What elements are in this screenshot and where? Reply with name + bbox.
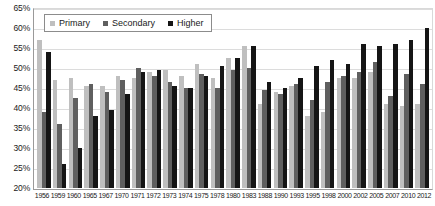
x-tick-label: 1983 — [241, 192, 257, 206]
x-tick-label: 1960 — [66, 192, 82, 206]
bars-layer — [35, 9, 431, 188]
x-tick-label: 1965 — [82, 192, 98, 206]
bar-higher — [78, 148, 83, 188]
bar-group — [225, 9, 241, 188]
bar-higher — [188, 88, 193, 188]
bar-group — [83, 9, 99, 188]
bar-group — [194, 9, 210, 188]
x-tick-label: 1967 — [98, 192, 114, 206]
bar-higher — [330, 60, 335, 188]
x-tick-label: 1971 — [130, 192, 146, 206]
bar-higher — [125, 94, 130, 188]
legend-label: Primary — [59, 18, 90, 28]
bar-higher — [204, 76, 209, 188]
bar-higher — [409, 40, 414, 188]
bar-group — [99, 9, 115, 188]
square-swatch-icon — [103, 21, 108, 26]
y-tick-label: 45% — [14, 84, 30, 93]
bar-group — [351, 9, 367, 188]
y-tick-label: 55% — [14, 44, 30, 53]
bar-higher — [393, 44, 398, 188]
bar-higher — [93, 116, 98, 188]
bar-higher — [267, 82, 272, 188]
x-tick-label: 1993 — [289, 192, 305, 206]
y-tick-label: 35% — [14, 124, 30, 133]
plot-area — [33, 8, 433, 190]
x-tick-label: 1959 — [50, 192, 66, 206]
y-tick-label: 20% — [14, 184, 30, 193]
bar-group — [336, 9, 352, 188]
bar-higher — [109, 110, 114, 188]
legend-entry-secondary[interactable]: Secondary — [103, 18, 155, 28]
legend-entry-higher[interactable]: Higher — [168, 18, 204, 28]
bar-group — [131, 9, 147, 188]
square-swatch-icon — [168, 21, 173, 26]
bar-higher — [314, 66, 319, 188]
bar-higher — [283, 88, 288, 188]
bar-group — [288, 9, 304, 188]
bar-higher — [46, 52, 51, 188]
x-tick-label: 2010 — [400, 192, 416, 206]
x-tick-label: 1970 — [114, 192, 130, 206]
bar-group — [52, 9, 68, 188]
bar-higher — [235, 58, 240, 188]
bar-higher — [251, 46, 256, 188]
bar-group — [304, 9, 320, 188]
x-tick-label: 2000 — [337, 192, 353, 206]
square-swatch-icon — [50, 21, 55, 26]
bar-group — [272, 9, 288, 188]
bar-higher — [172, 86, 177, 188]
bar-higher — [346, 64, 351, 188]
bar-higher — [361, 44, 366, 188]
bar-group — [162, 9, 178, 188]
y-tick-label: 60% — [14, 24, 30, 33]
y-axis: 65%60%55%50%45%40%35%30%25%20% — [0, 0, 33, 190]
bar-group — [414, 9, 430, 188]
legend-label: Higher — [177, 18, 204, 28]
y-tick-label: 40% — [14, 104, 30, 113]
y-tick-label: 50% — [14, 64, 30, 73]
x-tick-label: 1995 — [305, 192, 321, 206]
bar-higher — [298, 78, 303, 188]
y-tick-label: 25% — [14, 164, 30, 173]
legend-entry-primary[interactable]: Primary — [50, 18, 90, 28]
bar-group — [68, 9, 84, 188]
bar-higher — [220, 66, 225, 188]
bar-group — [383, 9, 399, 188]
bar-group — [36, 9, 52, 188]
bar-higher — [157, 70, 162, 188]
x-tick-label: 1980 — [225, 192, 241, 206]
legend-label: Secondary — [112, 18, 155, 28]
x-tick-label: 1975 — [193, 192, 209, 206]
x-tick-label: 2012 — [416, 192, 432, 206]
x-tick-label: 1972 — [145, 192, 161, 206]
bar-group — [367, 9, 383, 188]
bar-group — [399, 9, 415, 188]
bar-group — [320, 9, 336, 188]
bar-group — [115, 9, 131, 188]
x-tick-label: 1998 — [321, 192, 337, 206]
x-tick-label: 1973 — [161, 192, 177, 206]
bar-group — [209, 9, 225, 188]
bar-group — [178, 9, 194, 188]
bar-group — [257, 9, 273, 188]
x-tick-label: 1974 — [177, 192, 193, 206]
x-axis: 1956195919601965196719701971197219731974… — [33, 192, 433, 206]
y-tick-label: 65% — [14, 4, 30, 13]
y-tick-label: 30% — [14, 144, 30, 153]
x-tick-label: 1978 — [209, 192, 225, 206]
grouped-bar-chart: 65%60%55%50%45%40%35%30%25%20% PrimarySe… — [0, 0, 435, 206]
bar-group — [241, 9, 257, 188]
bar-higher — [141, 72, 146, 188]
x-tick-label: 1990 — [273, 192, 289, 206]
x-tick-label: 1956 — [34, 192, 50, 206]
x-tick-label: 2005 — [368, 192, 384, 206]
bar-higher — [62, 164, 67, 188]
x-tick-label: 2002 — [352, 192, 368, 206]
bar-higher — [377, 46, 382, 188]
chart-legend: PrimarySecondaryHigher — [44, 14, 212, 32]
x-tick-label: 2007 — [384, 192, 400, 206]
x-tick-label: 1988 — [257, 192, 273, 206]
bar-group — [146, 9, 162, 188]
bar-higher — [425, 28, 430, 188]
